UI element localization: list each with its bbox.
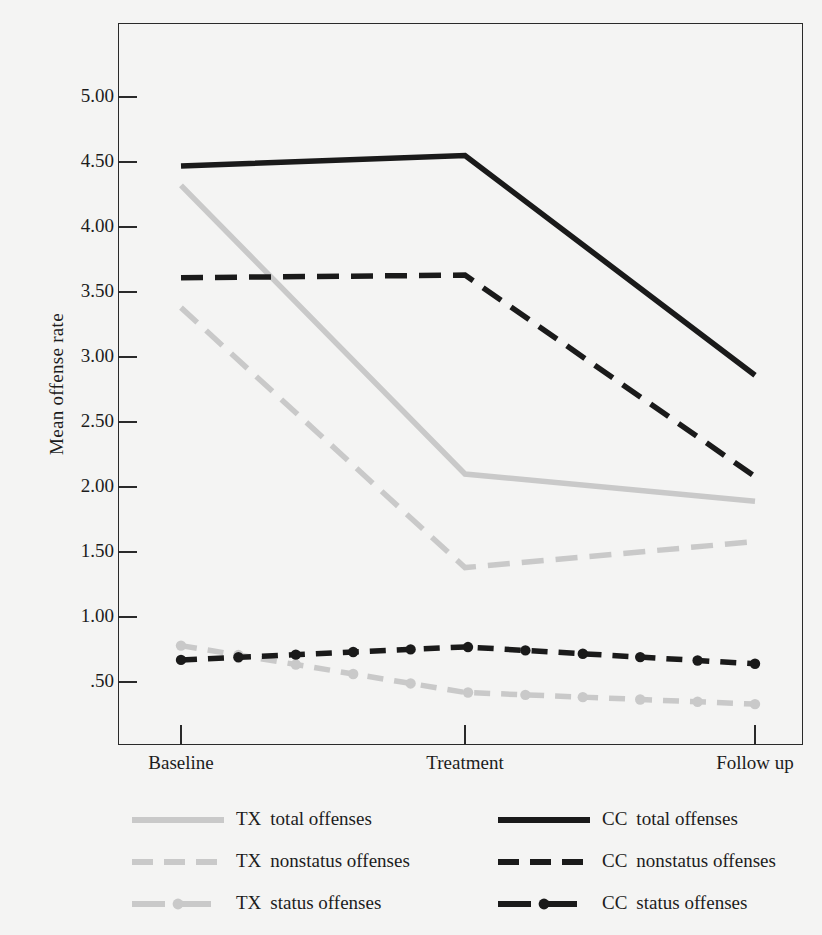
x-tick-label: Follow up <box>675 753 822 772</box>
plot-area-frame <box>118 23 803 745</box>
legend-swatch-line <box>132 855 224 869</box>
legend-item-label: TXtotal offenses <box>236 809 372 830</box>
y-tick-label: 1.50 <box>62 541 114 560</box>
y-tick-label: 1.00 <box>62 606 114 625</box>
legend-swatch-marker <box>539 899 550 910</box>
x-tick-mark <box>464 725 466 745</box>
x-tick-mark <box>754 725 756 745</box>
legend-swatch-marker <box>173 899 184 910</box>
legend-swatch <box>132 855 224 869</box>
legend-item-measure: status offenses <box>636 892 747 913</box>
legend-swatch <box>498 813 590 827</box>
legend-swatch-line <box>132 813 224 827</box>
y-axis-title: Mean offense rate <box>46 155 68 455</box>
legend-item-measure: total offenses <box>636 808 738 829</box>
x-tick-label: Baseline <box>101 753 261 772</box>
legend-swatch-line <box>498 813 590 827</box>
y-tick-label: 3.50 <box>62 281 114 300</box>
x-tick-label: Treatment <box>385 753 545 772</box>
legend-item-group: TX <box>236 892 261 913</box>
x-tick-mark <box>180 725 182 745</box>
y-tick-label: 3.00 <box>62 346 114 365</box>
legend-item-label: TXnonstatus offenses <box>236 851 410 872</box>
legend-item-label: CCnonstatus offenses <box>602 851 776 872</box>
legend-item-group: CC <box>602 850 627 871</box>
y-tick-label: 4.50 <box>62 151 114 170</box>
legend-item-measure: total offenses <box>270 808 372 829</box>
legend-item-group: CC <box>602 892 627 913</box>
legend-swatch <box>132 813 224 827</box>
legend-swatch-line <box>132 897 224 911</box>
legend-item-measure: nonstatus offenses <box>270 850 410 871</box>
y-tick-label: 2.50 <box>62 411 114 430</box>
legend-swatch-line <box>498 897 590 911</box>
legend-item-label: TXstatus offenses <box>236 893 381 914</box>
y-tick-label: .50 <box>62 671 114 690</box>
line-chart-figure: Mean offense rate 5.004.504.003.503.002.… <box>0 0 822 935</box>
legend-swatch-line <box>498 855 590 869</box>
y-tick-label: 4.00 <box>62 216 114 235</box>
legend-swatch <box>132 897 224 911</box>
legend-item-label: CCstatus offenses <box>602 893 747 914</box>
legend-item-group: TX <box>236 808 261 829</box>
legend-item-group: CC <box>602 808 627 829</box>
legend-item-label: CCtotal offenses <box>602 809 738 830</box>
chart-legend: TXtotal offensesTXnonstatus offensesTXst… <box>118 800 818 930</box>
legend-item-measure: nonstatus offenses <box>636 850 776 871</box>
legend-swatch <box>498 897 590 911</box>
y-tick-label: 2.00 <box>62 476 114 495</box>
legend-item-group: TX <box>236 850 261 871</box>
legend-swatch <box>498 855 590 869</box>
y-tick-label: 5.00 <box>62 86 114 105</box>
legend-item-measure: status offenses <box>270 892 381 913</box>
